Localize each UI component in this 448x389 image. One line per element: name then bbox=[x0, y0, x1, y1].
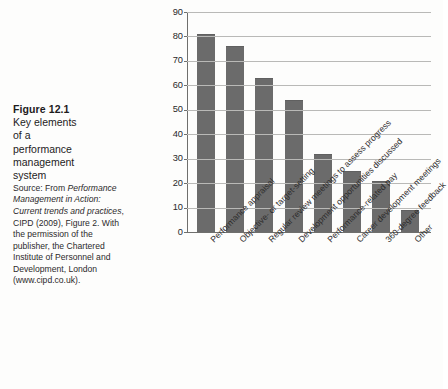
y-axis-tick-label: 30 bbox=[163, 154, 183, 163]
y-axis-tick-label: 80 bbox=[163, 32, 183, 41]
x-axis-tick-labels: Performance appraisalObjective- or targe… bbox=[187, 234, 437, 384]
y-axis-tick-label: 0 bbox=[163, 228, 183, 237]
gridline bbox=[187, 61, 431, 62]
gridline bbox=[187, 12, 431, 13]
y-axis-tick-label: 20 bbox=[163, 179, 183, 188]
y-axis-tick-labels: 9080706050403020100 bbox=[163, 12, 183, 244]
figure-source: Source: From Performance Management in A… bbox=[13, 183, 129, 287]
y-axis-tick-label: 40 bbox=[163, 130, 183, 139]
y-axis-tick-label: 90 bbox=[163, 8, 183, 17]
gridline bbox=[187, 85, 431, 86]
source-suffix: , CIPD (2009), Figure 2. With the permis… bbox=[13, 206, 124, 286]
y-axis-tick bbox=[184, 85, 187, 86]
y-axis-tick bbox=[184, 61, 187, 62]
bar bbox=[197, 34, 215, 232]
figure-caption: Figure 12.1 Key elements of a performanc… bbox=[13, 103, 129, 287]
y-axis-tick bbox=[184, 208, 187, 209]
y-axis-tick bbox=[184, 110, 187, 111]
y-axis-tick bbox=[184, 183, 187, 184]
y-axis-tick bbox=[184, 159, 187, 160]
gridline bbox=[187, 36, 431, 37]
source-prefix: Source: From bbox=[13, 183, 67, 193]
y-axis-tick-label: 60 bbox=[163, 81, 183, 90]
bar-chart: 9080706050403020100 Performance appraisa… bbox=[163, 12, 431, 384]
figure-subtitle-line-2: of a bbox=[13, 129, 129, 142]
y-axis-tick-label: 10 bbox=[163, 203, 183, 212]
gridline bbox=[187, 134, 431, 135]
figure-subtitle-line-4: management bbox=[13, 156, 129, 169]
figure-number: Figure 12.1 bbox=[13, 103, 129, 116]
y-axis-tick bbox=[184, 36, 187, 37]
y-axis-tick bbox=[184, 12, 187, 13]
figure-subtitle-line-5: system bbox=[13, 169, 129, 182]
gridline bbox=[187, 159, 431, 160]
figure-subtitle-line-3: performance bbox=[13, 143, 129, 156]
y-axis-tick bbox=[184, 232, 187, 233]
gridline bbox=[187, 183, 431, 184]
y-axis-tick-label: 70 bbox=[163, 56, 183, 65]
gridline bbox=[187, 110, 431, 111]
y-axis-tick bbox=[184, 134, 187, 135]
figure-subtitle-line-1: Key elements bbox=[13, 116, 129, 129]
y-axis-tick-label: 50 bbox=[163, 105, 183, 114]
